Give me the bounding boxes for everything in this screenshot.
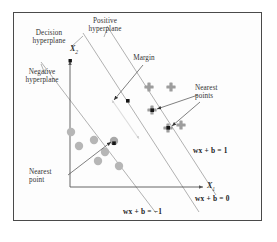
data-point-circle (90, 136, 98, 144)
support-vector-square (126, 99, 130, 103)
positive-class-points (143, 81, 185, 132)
label-nearest-points: Nearest points (195, 84, 237, 100)
y-axis-tip-square (69, 59, 72, 62)
y-axis-label-sub: 2 (75, 49, 78, 55)
y-axis-label: X2 (70, 44, 78, 55)
margin-endpoint-dot (112, 101, 114, 103)
equation-negative-hyperplane: wx + b = −1 (123, 207, 162, 216)
nearest-points-leader-lower (172, 102, 200, 126)
margin-start-dot (137, 136, 139, 138)
data-point-circle (94, 157, 102, 165)
data-point-cross (166, 82, 175, 91)
label-decision-hyperplane: Decision hyperplane (23, 29, 75, 45)
label-positive-hyperplane: Positive hyperplane (79, 17, 131, 33)
support-vector-markers (69, 59, 171, 145)
annotation-leaders (41, 29, 200, 175)
negative-class-points (67, 128, 123, 170)
x-axis-label: X1 (207, 181, 215, 192)
margin-line (112, 100, 139, 139)
nearest-point-leader (68, 142, 111, 175)
support-vector-square (166, 126, 170, 130)
data-point-cross (143, 81, 154, 92)
data-point-circle (67, 128, 75, 136)
support-vector-square (112, 141, 116, 145)
nearest-points-leader-upper (157, 95, 198, 109)
support-vector-square (150, 108, 154, 112)
data-point-cross (176, 120, 185, 129)
label-negative-hyperplane: Negative hyperplane (16, 68, 68, 84)
equation-decision-hyperplane: wx + b = 0 (195, 194, 230, 203)
margin-leader (114, 65, 143, 100)
label-nearest-point: Nearest point (29, 168, 71, 184)
data-point-circle (115, 162, 123, 170)
equation-positive-hyperplane: wx + b = 1 (193, 146, 228, 155)
x-axis-label-sub: 1 (212, 186, 215, 192)
svm-diagram-figure: Decision hyperplane Positive hyperplane … (0, 0, 277, 242)
label-margin: Margin (126, 54, 162, 62)
data-point-circle (75, 142, 83, 150)
